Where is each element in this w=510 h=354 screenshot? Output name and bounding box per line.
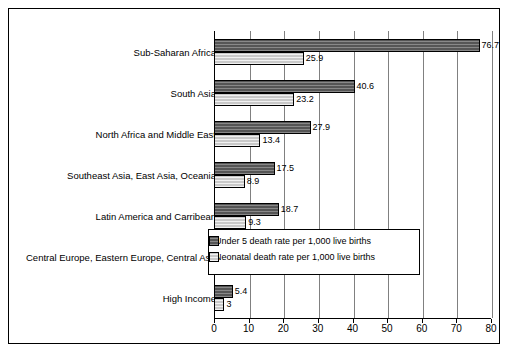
bar-value-label: 8.9: [247, 175, 260, 188]
gridline: [457, 31, 458, 318]
bar: [214, 162, 275, 175]
legend-swatch-under5: [209, 236, 219, 246]
x-tick-label: 60: [407, 323, 437, 335]
bar-value-label: 18.7: [281, 203, 299, 216]
bar-value-label: 5.4: [235, 285, 248, 298]
bar-value-label: 9.3: [248, 216, 261, 229]
category-label: South Asia: [26, 88, 216, 99]
bar-value-label: 76.7: [482, 39, 500, 52]
bar: [214, 121, 311, 134]
bar: [214, 80, 355, 93]
x-tick-label: 50: [372, 323, 402, 335]
gridline: [423, 31, 424, 318]
category-label: Southeast Asia, East Asia, Oceania: [26, 170, 216, 181]
bar: [214, 285, 233, 298]
bar-value-label: 27.9: [313, 121, 331, 134]
category-label: High Income: [26, 293, 216, 304]
bar-value-label: 13.4: [262, 134, 280, 147]
x-tick-label: 20: [268, 323, 298, 335]
category-label: Sub-Saharan Africa: [26, 47, 216, 58]
chart-frame: Sub-Saharan AfricaSouth AsiaNorth Africa…: [8, 8, 500, 344]
bar-value-label: 17.5: [277, 162, 295, 175]
x-tick-label: 0: [199, 323, 229, 335]
legend-item-neonatal: Neonatal death rate per 1,000 live birth…: [215, 252, 414, 262]
bar: [214, 216, 246, 229]
legend-item-under5: Under 5 death rate per 1,000 live births: [215, 236, 414, 246]
legend-label-neonatal: Neonatal death rate per 1,000 live birth…: [215, 252, 375, 262]
bar: [214, 93, 294, 106]
bar-value-label: 25.9: [306, 52, 324, 65]
bar: [214, 134, 260, 147]
x-tick-label: 30: [303, 323, 333, 335]
chart-legend: Under 5 death rate per 1,000 live births…: [208, 229, 420, 275]
legend-swatch-neonatal: [209, 252, 219, 262]
gridline: [492, 31, 493, 318]
bar: [214, 39, 480, 52]
bar: [214, 175, 245, 188]
x-tick-label: 80: [476, 323, 506, 335]
bar: [214, 203, 279, 216]
bar-value-label: 3: [226, 298, 231, 311]
bar: [214, 52, 304, 65]
x-tick-label: 10: [234, 323, 264, 335]
category-label: North Africa and Middle East: [26, 129, 216, 140]
category-label: Central Europe, Eastern Europe, Central …: [26, 252, 216, 263]
legend-label-under5: Under 5 death rate per 1,000 live births: [215, 236, 371, 246]
category-label: Latin America and Carribean: [26, 211, 216, 222]
bar: [214, 298, 224, 311]
bar-value-label: 23.2: [296, 93, 314, 106]
bar-value-label: 40.6: [357, 80, 375, 93]
chart-container: Sub-Saharan AfricaSouth AsiaNorth Africa…: [0, 0, 510, 354]
x-tick-label: 40: [338, 323, 368, 335]
x-tick-label: 70: [441, 323, 471, 335]
